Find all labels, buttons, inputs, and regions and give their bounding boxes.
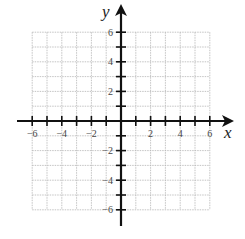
x-tick-label: 6: [207, 128, 212, 139]
x-axis-label: x: [223, 123, 232, 142]
x-tick-label: −4: [56, 128, 67, 139]
x-tick-label: −2: [86, 128, 97, 139]
y-tick-label: −4: [102, 175, 113, 186]
y-tick-label: 4: [108, 56, 113, 67]
y-tick-label: 2: [108, 86, 113, 97]
y-tick-label: −6: [102, 204, 113, 215]
x-tick-label: 4: [178, 128, 183, 139]
y-axis-label: y: [100, 2, 110, 21]
axes: [17, 4, 234, 226]
coordinate-plane: −6−4−2246642−2−4−6 x y: [0, 0, 245, 239]
x-tick-label: 2: [148, 128, 153, 139]
y-tick-label: 6: [108, 27, 113, 38]
y-tick-label: −2: [102, 145, 113, 156]
x-tick-label: −6: [27, 128, 38, 139]
